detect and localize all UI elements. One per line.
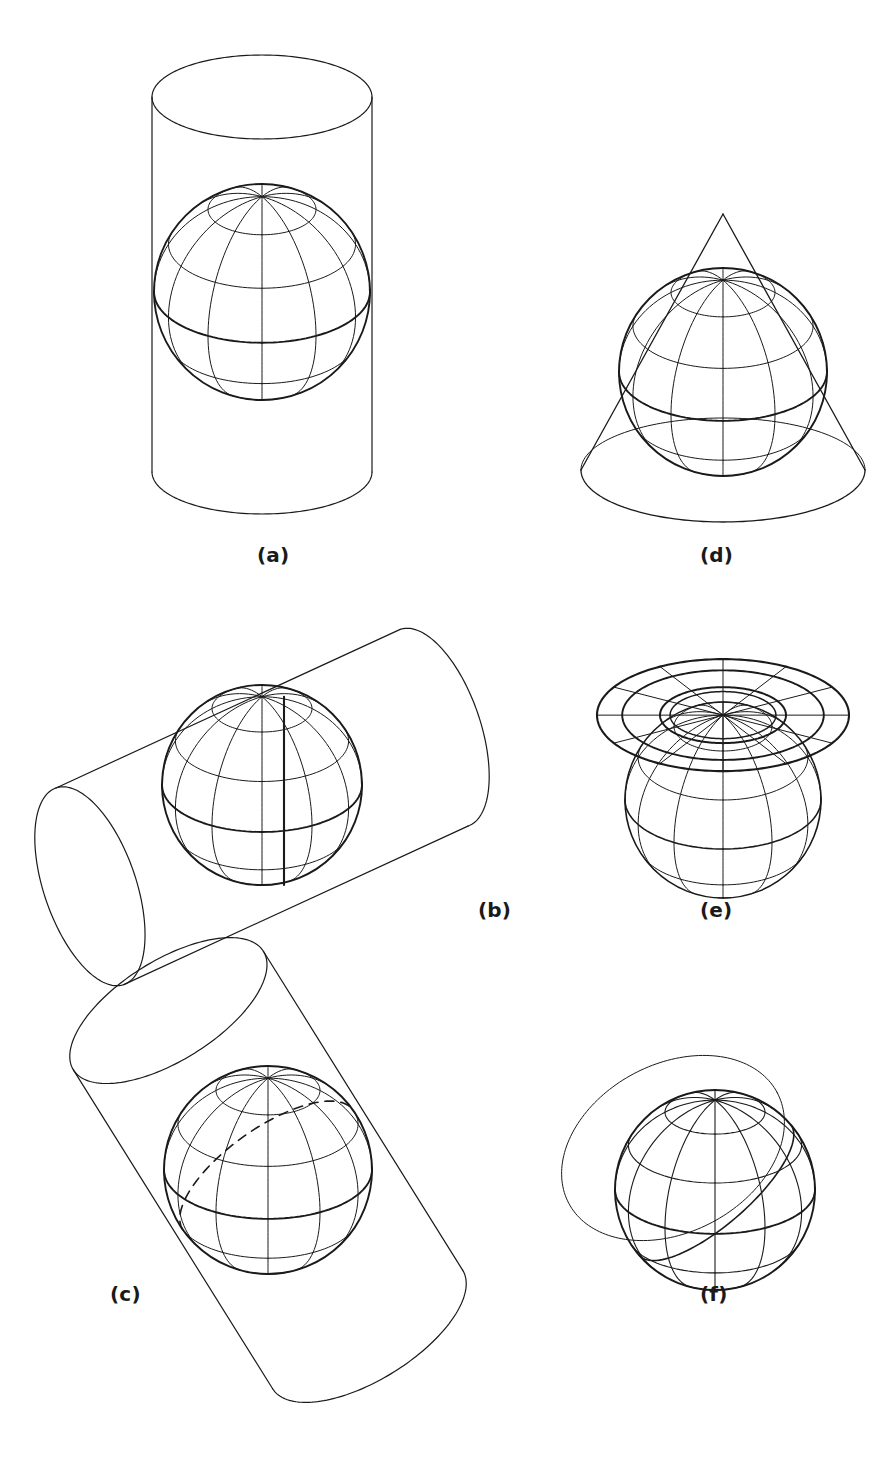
panel-c-oblique-cylinder	[70, 938, 466, 1403]
globe-meridian	[262, 197, 356, 375]
cylinder-left-cap	[35, 787, 145, 986]
globe-meridian	[262, 697, 349, 862]
globe-meridian	[208, 197, 262, 396]
globe-meridian	[715, 1100, 765, 1287]
globe-parallel	[262, 229, 356, 289]
figure-root: (a) (b) (c) (d) (e) (f)	[0, 0, 884, 1471]
tangent-plane-rim	[562, 1055, 785, 1240]
globe-parallel	[633, 313, 723, 368]
cylinder-top-rim	[152, 55, 372, 139]
tangent-plane-radial	[723, 715, 786, 764]
globe-parallel	[175, 728, 262, 781]
globe-meridian	[216, 1078, 268, 1270]
panel-f-oblique-plane	[562, 1055, 815, 1290]
globe-meridian	[665, 1100, 715, 1287]
globe-meridian	[262, 697, 312, 881]
globe-meridian	[715, 1100, 802, 1269]
globe-parallel	[715, 1133, 802, 1183]
panel-label-d: (d)	[700, 543, 733, 567]
cone-base-rim-front	[581, 470, 865, 522]
cone-left-edge	[581, 214, 723, 470]
globe-parallel	[262, 726, 349, 781]
globe-parallel	[268, 1109, 358, 1166]
globe-meridian	[175, 697, 262, 862]
panel-label-b: (b)	[478, 898, 511, 922]
cylinder-right-edge	[73, 1070, 272, 1389]
cylinder-bottom-rim-front	[152, 472, 372, 514]
globe-meridian	[212, 697, 262, 881]
globe-parallel	[168, 231, 262, 288]
panel-b-transverse-cylinder	[35, 628, 489, 985]
globe-meridian	[262, 197, 316, 396]
panel-a-normal-cylinder	[152, 55, 372, 514]
panel-d-normal-cone	[581, 214, 865, 522]
cylinder-bottom-cap-front	[273, 1270, 467, 1402]
globe-parallel	[723, 311, 813, 368]
panel-label-a: (a)	[257, 543, 289, 567]
tangent-plane-radial	[660, 715, 723, 764]
globe-parallel	[638, 744, 723, 800]
panel-label-c: (c)	[110, 1282, 141, 1306]
globe-meridian	[168, 197, 262, 375]
globe-parallel	[178, 1111, 268, 1166]
projection-surfaces-figure	[0, 0, 884, 1471]
cone-right-edge	[723, 214, 865, 470]
cylinder-bottom-edge	[124, 826, 468, 985]
globe-meridian	[723, 280, 775, 472]
oblique-great-circle	[639, 1135, 794, 1261]
globe-meridian	[268, 1078, 320, 1270]
globe-meridian	[178, 1078, 268, 1249]
tangent-plane-radial	[723, 687, 832, 715]
cylinder-right-cap-front	[400, 628, 489, 826]
tangent-plane-radial	[614, 687, 723, 715]
panel-label-f: (f)	[700, 1282, 728, 1306]
panel-label-e: (e)	[700, 898, 732, 922]
cylinder-top-edge	[56, 629, 400, 788]
cylinder-top-cap	[70, 938, 267, 1084]
panel-e-polar-plane	[597, 659, 849, 898]
globe-meridian	[628, 1100, 715, 1269]
globe-meridian	[671, 280, 723, 472]
